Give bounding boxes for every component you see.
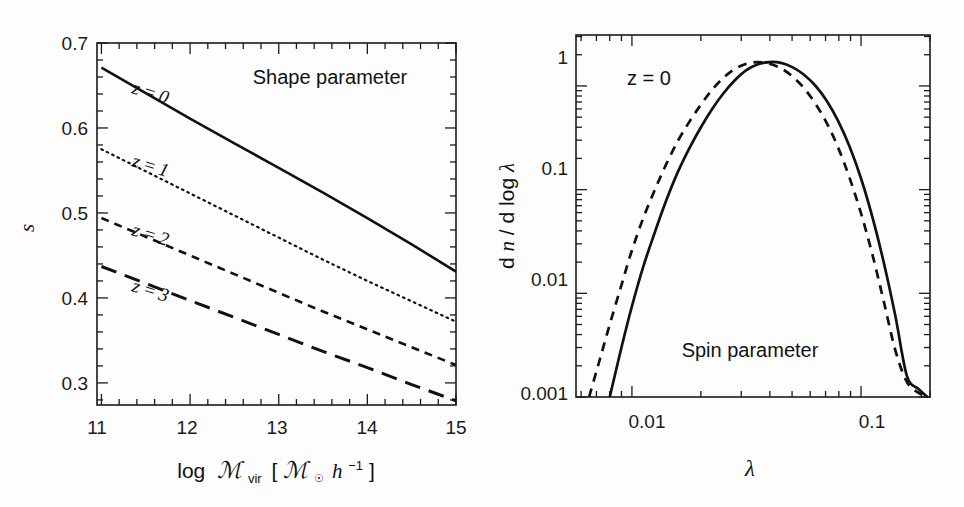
shape-parameter-annotation: Shape parameter [253,66,408,88]
xaxis-vir-token: vir [248,471,262,486]
y-tick-label: 1 [557,47,568,68]
y-tick-label: 0.4 [62,288,89,309]
yaxis-lambda-token: λ [495,163,519,173]
y-axis-title-left: s [15,224,39,232]
x-tick-label: 11 [87,417,107,438]
x-tick-label: 15 [445,417,466,438]
curve-label-z1: z = 1 [129,149,172,180]
spin-parameter-annotation: Spin parameter [682,339,819,361]
shape-parameter-svg: 0.7 0.6 0.5 0.4 0.3 11 12 13 14 15 s log… [0,0,482,507]
x-tick-label: 0.1 [859,411,885,432]
y-axis-title-right: d n / d log λ [495,163,519,269]
x-axis-title-right: λ [744,456,755,481]
y-tick-label: 0.6 [62,118,88,139]
xaxis-script-M2-token: ℳ [283,458,311,483]
x-tick-label: 13 [266,417,287,438]
xaxis-h-token: h [332,459,343,483]
y-tick-labels-right: 1 0.1 0.01 0.001 [520,47,568,404]
curve-label-z0: z = 0 [129,76,172,107]
yaxis-dlog-token: d log [495,172,518,223]
xaxis-script-M-token: ℳ [217,458,245,483]
y-tick-label: 0.3 [62,373,88,394]
x-axis-title-left: log ℳ vir [ ℳ ☉ h −1 ] [177,451,375,487]
y-tick-label: 0.5 [62,203,88,224]
scientific-figure: 0.7 0.6 0.5 0.4 0.3 11 12 13 14 15 s log… [0,0,964,507]
curve-label-z3: z = 3 [129,274,172,305]
xaxis-log-token: log [177,459,205,482]
x-tick-label: 12 [176,417,197,438]
xaxis-bracket-open: [ [272,459,278,482]
xaxis-bracket-close: ] [369,459,375,482]
y-tick-labels-left: 0.7 0.6 0.5 0.4 0.3 [62,33,89,394]
x-tick-label: 0.01 [629,411,666,432]
y-tick-label: 0.01 [531,269,568,290]
xaxis-sun-token: ☉ [314,472,324,484]
spin-parameter-svg: 1 0.1 0.01 0.001 0.01 0.1 d n / d log λ … [482,0,964,507]
yaxis-slash-token: / [495,223,518,235]
spin-parameter-panel: 1 0.1 0.01 0.001 0.01 0.1 d n / d log λ … [482,0,964,507]
redshift-annotation: z = 0 [627,67,671,89]
curve-label-z2: z = 2 [129,218,172,249]
y-tick-label: 0.001 [520,383,568,404]
y-tick-label: 0.7 [62,33,88,54]
x-tick-labels-left: 11 12 13 14 15 [87,417,466,438]
yaxis-d-token: d [495,257,518,269]
yaxis-n-token: n [495,241,519,252]
xaxis-exponent-token: −1 [348,458,363,473]
x-tick-labels-right: 0.01 0.1 [629,411,886,432]
x-tick-label: 14 [356,417,378,438]
shape-parameter-panel: 0.7 0.6 0.5 0.4 0.3 11 12 13 14 15 s log… [0,0,482,507]
y-tick-label: 0.1 [542,158,568,179]
